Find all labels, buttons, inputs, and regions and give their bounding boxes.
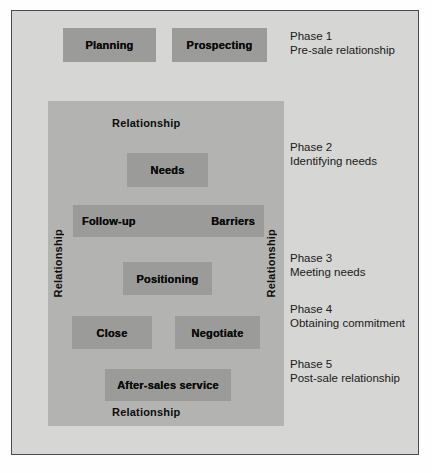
node-prospecting: Prospecting [172, 28, 267, 62]
diagram-frame: Planning Prospecting Relationship Relati… [11, 10, 419, 455]
phase-3-label: Phase 3 Meeting needs [290, 251, 365, 279]
phase-4-subtitle: Obtaining commitment [290, 316, 405, 330]
node-followup-label: Follow-up [82, 215, 136, 227]
relationship-bottom-label: Relationship [112, 406, 180, 418]
phase-3-subtitle: Meeting needs [290, 265, 365, 279]
node-planning: Planning [63, 28, 156, 62]
diagram-canvas: Planning Prospecting Relationship Relati… [0, 0, 432, 473]
node-followup-barriers: Follow-up Barriers [73, 205, 264, 237]
node-close: Close [72, 316, 152, 349]
relationship-top-label: Relationship [112, 117, 180, 129]
phase-2-label: Phase 2 Identifying needs [290, 140, 377, 168]
node-after-sales-service: After-sales service [105, 369, 231, 401]
node-planning-label: Planning [85, 39, 133, 51]
node-after-sales-service-label: After-sales service [117, 379, 219, 391]
node-positioning-label: Positioning [136, 273, 198, 285]
node-prospecting-label: Prospecting [187, 39, 253, 51]
phase-2-title: Phase 2 [290, 140, 377, 154]
relationship-left-label: Relationship [52, 229, 64, 297]
node-positioning: Positioning [123, 262, 212, 295]
phase-4-title: Phase 4 [290, 302, 405, 316]
phase-2-subtitle: Identifying needs [290, 154, 377, 168]
node-needs: Needs [127, 153, 208, 187]
phase-5-title: Phase 5 [290, 357, 400, 371]
phase-1-subtitle: Pre-sale relationship [290, 43, 395, 57]
phase-3-title: Phase 3 [290, 251, 365, 265]
node-close-label: Close [97, 327, 128, 339]
phase-5-subtitle: Post-sale relationship [290, 371, 400, 385]
node-barriers-label: Barriers [211, 215, 255, 227]
node-needs-label: Needs [150, 164, 184, 176]
relationship-panel: Relationship Relationship Relationship N… [48, 101, 284, 426]
phase-4-label: Phase 4 Obtaining commitment [290, 302, 405, 330]
phase-1-label: Phase 1 Pre-sale relationship [290, 29, 395, 57]
phase-5-label: Phase 5 Post-sale relationship [290, 357, 400, 385]
node-negotiate: Negotiate [175, 316, 260, 349]
node-negotiate-label: Negotiate [192, 327, 244, 339]
relationship-right-label: Relationship [265, 229, 277, 297]
phase-1-title: Phase 1 [290, 29, 395, 43]
